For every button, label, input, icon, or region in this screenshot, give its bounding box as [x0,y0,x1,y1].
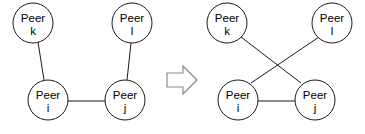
node-peer-i: Peer i [218,80,258,120]
edge-k-j [241,37,301,83]
node-id: i [237,102,240,114]
edge-l-j [127,43,131,80]
node-peer-j: Peer j [295,80,335,120]
edge-l-i [251,37,319,83]
after-topology: Peer k Peer l Peer i Peer j [207,3,352,120]
node-label: Peer [303,89,327,101]
node-id: j [313,102,317,114]
node-id: k [224,25,230,37]
node-id: l [131,25,134,37]
node-label: Peer [320,12,344,24]
node-peer-k: Peer k [13,3,53,43]
arrow-right-icon [167,66,197,94]
node-label: Peer [226,89,250,101]
diagram-canvas: Peer k Peer l Peer i Peer j [0,0,365,134]
node-peer-l: Peer l [112,3,152,43]
node-peer-k: Peer k [207,3,247,43]
node-id: k [30,25,36,37]
node-peer-l: Peer l [312,3,352,43]
node-label: Peer [21,12,45,24]
transformation-arrow [167,66,197,94]
node-label: Peer [113,89,137,101]
node-id: j [123,102,127,114]
node-label: Peer [215,12,239,24]
edge-k-i [38,42,44,80]
node-peer-i: Peer i [28,80,68,120]
node-id: i [47,102,50,114]
node-label: Peer [120,12,144,24]
node-id: l [331,25,334,37]
node-label: Peer [36,89,60,101]
peer-topology-diagram: Peer k Peer l Peer i Peer j [0,0,365,134]
before-topology: Peer k Peer l Peer i Peer j [13,3,152,120]
node-peer-j: Peer j [105,80,145,120]
